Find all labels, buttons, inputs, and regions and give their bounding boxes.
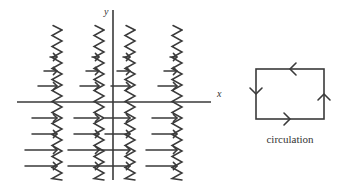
arrow-lower-r2-c2 — [74, 130, 99, 137]
wave-top-hook-4 — [173, 26, 182, 31]
arrow-lower-r2-c4 — [152, 130, 177, 137]
physics-figure: x y circulation — [0, 0, 345, 191]
circulation-box — [256, 69, 324, 119]
circulation-diagram-group — [250, 63, 330, 125]
arrow-upper-r3-c1 — [38, 82, 57, 89]
arrow-lower-r1-c2 — [74, 114, 99, 121]
arrow-lower-r2-c1 — [32, 130, 57, 137]
arrow-upper-r3-c3 — [111, 82, 130, 89]
arrow-lower-r4-c1 — [25, 162, 57, 169]
wave-line-1 — [52, 30, 62, 180]
axes-group — [17, 10, 211, 180]
wave-top-hook-3 — [126, 26, 135, 31]
arrow-lower-r3-c3 — [99, 146, 130, 153]
arrow-lower-r1-c1 — [32, 114, 57, 121]
arrow-lower-r3-c4 — [146, 146, 177, 153]
wave-line-3 — [125, 30, 135, 180]
x-axis-label: x — [216, 88, 222, 99]
arrow-lower-r1-c4 — [152, 114, 177, 121]
wave-top-hook-2 — [95, 26, 104, 31]
arrow-upper-r3-c2 — [80, 82, 99, 89]
y-axis-label: y — [103, 6, 109, 17]
wave-line-2 — [94, 30, 104, 180]
circulation-label: circulation — [266, 133, 314, 145]
arrow-lower-r3-c2 — [68, 146, 99, 153]
figure-canvas: x y circulation — [0, 0, 345, 191]
wave-line-4 — [172, 30, 182, 180]
wave-top-hook-1 — [53, 26, 62, 31]
arrow-lower-r1-c3 — [105, 114, 130, 121]
arrow-lower-r3-c1 — [25, 146, 57, 153]
arrow-lower-r2-c3 — [105, 130, 130, 137]
arrow-upper-r3-c4 — [158, 82, 177, 89]
